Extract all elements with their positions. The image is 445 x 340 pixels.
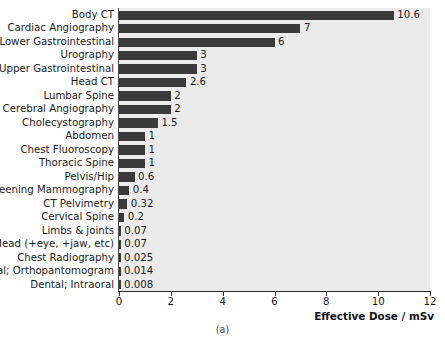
figure-caption: (a) [0, 324, 445, 335]
bar-row: Lower Gastrointestinal6 [0, 35, 445, 50]
category-label: Chest Radiography [17, 251, 114, 266]
bar-row: CT Pelvimetry0.32 [0, 197, 445, 212]
category-label: Dental; Orthopantomogram [0, 264, 114, 279]
x-tick-label: 4 [203, 296, 243, 307]
bar-row: Dental; Intraoral0.008 [0, 278, 445, 293]
bar-row: Cervical Spine0.2 [0, 210, 445, 225]
x-tick-label: 8 [306, 296, 346, 307]
bar-row: Upper Gastrointestinal3 [0, 62, 445, 77]
category-label: Limbs & joints [42, 224, 114, 239]
bar-row: Thoracic Spine1 [0, 156, 445, 171]
bar-row: Chest Radiography0.025 [0, 251, 445, 266]
bar-value-label: 1 [148, 156, 154, 171]
x-tick-label: 10 [358, 296, 398, 307]
bar [119, 159, 145, 168]
bar-value-label: 1 [148, 143, 154, 158]
bar-value-label: 2.6 [190, 75, 206, 90]
category-label: CT Pelvimetry [43, 197, 114, 212]
bar-value-label: 3 [200, 48, 206, 63]
bar [119, 91, 171, 100]
bar [119, 213, 124, 222]
bar [119, 145, 145, 154]
bar [119, 199, 127, 208]
category-label: Dental; Intraoral [30, 278, 114, 293]
x-tick-label: 6 [255, 296, 295, 307]
bar-row: Body CT10.6 [0, 8, 445, 23]
category-label: Urography [60, 48, 114, 63]
bar-value-label: 2 [174, 89, 180, 104]
bar [119, 267, 121, 276]
bar-row: Lumbar Spine2 [0, 89, 445, 104]
bar-row: Head (+eye, +jaw, etc)0.07 [0, 237, 445, 252]
bar-value-label: 2 [174, 102, 180, 117]
bar-value-label: 3 [200, 62, 206, 77]
bar-value-label: 7 [304, 21, 310, 36]
bar [119, 64, 197, 73]
category-label: Cardiac Angiography [7, 21, 114, 36]
bar [119, 280, 121, 289]
x-axis-label: Effective Dose / mSv [0, 310, 434, 322]
bar [119, 24, 300, 33]
category-label: Chest Fluoroscopy [20, 143, 114, 158]
bar-value-label: 0.2 [128, 210, 144, 225]
bar-value-label: 0.07 [124, 224, 147, 239]
bar [119, 240, 121, 249]
category-label: Head (+eye, +jaw, etc) [0, 237, 114, 252]
bar-row: Cerebral Angiography2 [0, 102, 445, 117]
effective-dose-bar-chart-figure: Body CT10.6Cardiac Angiography7Lower Gas… [0, 0, 445, 340]
bar-value-label: 10.6 [397, 8, 420, 23]
category-label: Lower Gastrointestinal [0, 35, 114, 50]
bar-value-label: 1 [148, 129, 154, 144]
bar-value-label: 0.4 [133, 183, 149, 198]
category-label: Screening Mammography [0, 183, 114, 198]
bar-row: Cardiac Angiography7 [0, 21, 445, 36]
bar [119, 172, 135, 181]
bar-value-label: 0.07 [124, 237, 147, 252]
category-label: Lumbar Spine [43, 89, 114, 104]
bar-value-label: 0.014 [124, 264, 153, 279]
category-label: Cerebral Angiography [3, 102, 114, 117]
bar [119, 51, 197, 60]
x-tick-label: 12 [410, 296, 445, 307]
bar-value-label: 0.6 [138, 170, 154, 185]
x-tick-label: 2 [151, 296, 191, 307]
bar [119, 11, 394, 20]
bar [119, 118, 158, 127]
bar-row: Chest Fluoroscopy1 [0, 143, 445, 158]
category-label: Body CT [72, 8, 114, 23]
bar-row: Pelvis/Hip0.6 [0, 170, 445, 185]
bar-row: Abdomen1 [0, 129, 445, 144]
bar [119, 253, 121, 262]
bar-value-label: 0.32 [131, 197, 154, 212]
bar [119, 186, 129, 195]
bar [119, 38, 275, 47]
bar-value-label: 0.008 [124, 278, 153, 293]
category-label: Abdomen [65, 129, 114, 144]
bar-row: Screening Mammography0.4 [0, 183, 445, 198]
bar [119, 105, 171, 114]
bar [119, 132, 145, 141]
bar-row: Urography3 [0, 48, 445, 63]
category-label: Cervical Spine [41, 210, 114, 225]
bar [119, 226, 121, 235]
category-label: Cholecystography [22, 116, 114, 131]
category-label: Thoracic Spine [39, 156, 114, 171]
category-label: Upper Gastrointestinal [0, 62, 114, 77]
bar-value-label: 6 [278, 35, 284, 50]
bar-value-label: 1.5 [161, 116, 177, 131]
bar-value-label: 0.025 [124, 251, 153, 266]
bar-row: Dental; Orthopantomogram0.014 [0, 264, 445, 279]
category-label: Head CT [71, 75, 114, 90]
bar-row: Head CT2.6 [0, 75, 445, 90]
bar-row: Cholecystography1.5 [0, 116, 445, 131]
category-label: Pelvis/Hip [65, 170, 114, 185]
x-tick-label: 0 [99, 296, 139, 307]
bar-row: Limbs & joints0.07 [0, 224, 445, 239]
bar [119, 78, 186, 87]
